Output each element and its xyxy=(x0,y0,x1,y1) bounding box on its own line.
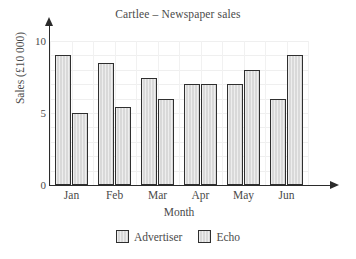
x-axis-tick-label: Apr xyxy=(192,189,210,201)
x-axis-tick-label: Feb xyxy=(106,189,123,201)
bar-chart: Cartlee – Newspaper sales 0510 Sales (£1… xyxy=(0,0,356,259)
x-axis-tick-labels: JanFebMarAprMayJun xyxy=(0,0,356,259)
legend-swatch xyxy=(116,230,129,243)
legend-entry[interactable]: Echo xyxy=(198,230,240,243)
legend-entry[interactable]: Advertiser xyxy=(116,230,183,243)
x-axis-tick-label: Mar xyxy=(148,189,167,201)
legend-label: Advertiser xyxy=(134,231,183,243)
x-axis-title: Month xyxy=(50,206,308,218)
x-axis-tick-label: May xyxy=(233,189,254,201)
x-axis-tick-label: Jun xyxy=(279,189,295,201)
legend-label: Echo xyxy=(216,231,240,243)
legend-swatch xyxy=(198,230,211,243)
x-axis-tick-label: Jan xyxy=(64,189,79,201)
chart-legend: AdvertiserEcho xyxy=(0,230,356,243)
